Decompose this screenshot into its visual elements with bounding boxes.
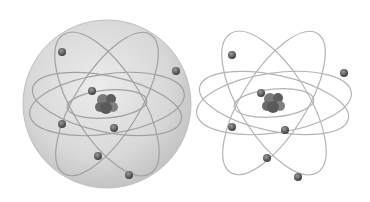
atom-without-sphere — [193, 15, 356, 190]
electrons — [228, 51, 348, 181]
nucleus — [262, 93, 285, 113]
nucleus — [95, 94, 118, 114]
atom-illustration — [0, 0, 370, 202]
atom-with-sphere — [23, 16, 191, 191]
